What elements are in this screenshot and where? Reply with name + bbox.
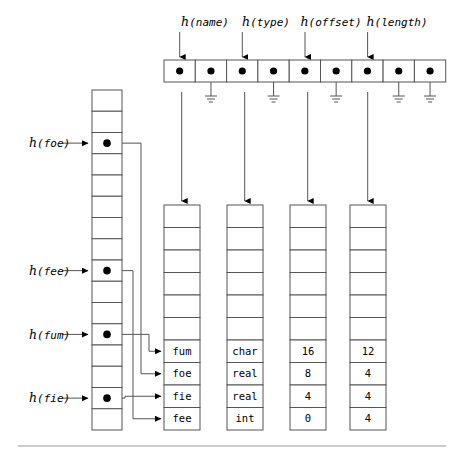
record-cell — [290, 318, 326, 341]
record-value-offset: 4 — [305, 390, 311, 402]
left-hash-cell[interactable] — [92, 154, 122, 175]
record-cell — [227, 273, 263, 296]
record-value-type: real — [232, 390, 257, 402]
left-hash-cell[interactable] — [92, 303, 122, 324]
left-hash-dot — [103, 139, 111, 147]
ground-icon — [205, 96, 217, 102]
record-value-offset: 0 — [305, 412, 311, 424]
hash-cell-dot — [333, 67, 340, 74]
left-hash-label: h(foe) — [29, 135, 70, 150]
record-value-name: fie — [173, 390, 192, 402]
hash-cell-dot — [364, 67, 371, 74]
record-cell — [290, 228, 326, 251]
record-cell — [350, 318, 386, 341]
left-hash-cell[interactable] — [92, 345, 122, 366]
record-cell — [227, 295, 263, 318]
left-hash-dot — [103, 331, 111, 339]
table-boxes — [92, 60, 446, 430]
hash-cell-dot — [426, 67, 433, 74]
record-cell — [290, 250, 326, 273]
record-value-offset: 8 — [305, 367, 311, 379]
left-hash-label: h(fie) — [29, 390, 70, 405]
ground-icon — [393, 96, 405, 102]
hash-key-label: h(type) — [242, 14, 290, 29]
record-value-length: 4 — [365, 390, 371, 402]
hash-cell-dot — [270, 67, 277, 74]
ground-icon — [424, 96, 436, 102]
left-hash-label: h(fum) — [29, 327, 70, 342]
left-hash-cell[interactable] — [92, 218, 122, 239]
hash-cell-dot — [301, 67, 308, 74]
left-hash-cell[interactable] — [92, 409, 122, 430]
record-cell — [164, 295, 200, 318]
record-cell — [227, 250, 263, 273]
record-value-name: fum — [173, 345, 192, 357]
left-hash-dot — [103, 394, 111, 402]
hash-key-label: h(length) — [366, 14, 427, 29]
record-cell — [227, 318, 263, 341]
record-cell — [164, 250, 200, 273]
left-hash-cell[interactable] — [92, 281, 122, 302]
record-cell — [290, 295, 326, 318]
record-value-length: 4 — [365, 412, 371, 424]
record-value-offset: 16 — [302, 345, 315, 357]
record-cell — [164, 205, 200, 228]
left-hash-cell[interactable] — [92, 196, 122, 217]
left-hash-dot — [103, 267, 111, 275]
hash-cell-dot — [395, 67, 402, 74]
record-value-type: int — [236, 412, 255, 424]
record-value-length: 4 — [365, 367, 371, 379]
hash-table-diagram: fumfoefiefeecharrealrealint1684012444h(n… — [0, 0, 464, 459]
figure-canvas: fumfoefiefeecharrealrealint1684012444h(n… — [0, 0, 464, 459]
record-value-type: char — [232, 345, 257, 357]
record-value-name: foe — [173, 367, 192, 379]
record-cell — [350, 295, 386, 318]
left-hash-cell[interactable] — [92, 239, 122, 260]
record-value-length: 12 — [362, 345, 375, 357]
record-cell — [290, 273, 326, 296]
ground-icon — [268, 96, 280, 102]
record-cell — [350, 228, 386, 251]
record-cell — [227, 205, 263, 228]
left-hash-label: h(fee) — [29, 263, 70, 278]
record-cell — [227, 228, 263, 251]
record-cell — [164, 273, 200, 296]
hash-cell-dot — [239, 67, 246, 74]
ground-icon — [330, 96, 342, 102]
record-cell — [164, 228, 200, 251]
record-cell — [350, 205, 386, 228]
left-hash-cell[interactable] — [92, 175, 122, 196]
left-hash-cell[interactable] — [92, 111, 122, 132]
hash-cell-dot — [176, 67, 183, 74]
record-cell — [290, 205, 326, 228]
hash-cell-dot — [207, 67, 214, 74]
left-hash-cell[interactable] — [92, 90, 122, 111]
hash-key-label: h(name) — [181, 14, 229, 29]
record-cell — [164, 318, 200, 341]
record-value-name: fee — [173, 412, 192, 424]
record-value-type: real — [232, 367, 257, 379]
left-hash-cell[interactable] — [92, 366, 122, 387]
record-cell — [350, 273, 386, 296]
hash-key-label: h(offset) — [300, 14, 361, 29]
record-cell — [350, 250, 386, 273]
